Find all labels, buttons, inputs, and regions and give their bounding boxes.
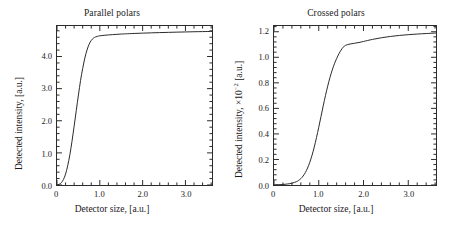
panel-title: Parallel polars	[0, 8, 224, 18]
data-curve	[57, 31, 212, 185]
x-axis-title: Detector size, [a.u.]	[224, 204, 448, 214]
x-axis-tick-label: 2.0	[358, 189, 369, 199]
plot-area	[56, 25, 213, 186]
y-axis-tick-label: 4.0	[41, 51, 52, 61]
x-axis-tick-label: 3.0	[404, 189, 415, 199]
panel-title: Crossed polars	[224, 8, 448, 18]
y-axis-title-exponent: −2	[232, 83, 239, 90]
y-axis-tick-label: 1.0	[258, 52, 269, 62]
x-axis-tick-label: 1.0	[94, 189, 105, 199]
data-curve	[274, 33, 436, 185]
y-axis-title-suffix: [a.u.]	[234, 61, 244, 83]
y-axis-tick-label: 0.6	[258, 103, 269, 113]
y-axis-tick-label: 0.4	[258, 129, 269, 139]
y-axis-tick-label: 0.0	[258, 181, 269, 191]
y-axis-title: Detected intensity, [a.u.]	[14, 77, 24, 170]
x-axis-tick-label: 1.0	[313, 189, 324, 199]
y-axis-title-prefix: Detected intensity, ×10	[234, 90, 244, 178]
tick-marks	[274, 26, 436, 185]
figure-two-panel-plot: Parallel polars 0.01.02.03.04.0 01.02.03…	[0, 0, 449, 228]
y-axis-tick-label: 2.0	[41, 116, 52, 126]
y-axis-tick-label: 0.0	[41, 181, 52, 191]
x-axis-tick-label: 3.0	[181, 189, 192, 199]
y-axis-tick-label: 0.2	[258, 155, 269, 165]
x-axis-title: Detector size, [a.u.]	[0, 204, 224, 214]
panel-crossed-polars: Crossed polars 0.00.20.40.60.81.01.2 01.…	[224, 0, 448, 228]
x-axis-tick-labels: 01.02.03.0	[273, 189, 437, 203]
y-axis-tick-labels: 0.01.02.03.04.0	[20, 25, 52, 186]
y-axis-tick-label: 1.0	[41, 149, 52, 159]
plot-canvas	[274, 26, 436, 185]
plot-canvas	[57, 26, 212, 185]
tick-marks	[57, 26, 212, 185]
x-axis-tick-labels: 01.02.03.0	[56, 189, 213, 203]
y-axis-tick-label: 0.8	[258, 78, 269, 88]
y-axis-title: Detected intensity, ×10−2 [a.u.]	[232, 61, 244, 178]
y-axis-tick-label: 1.2	[258, 26, 269, 36]
y-axis-tick-label: 3.0	[41, 83, 52, 93]
x-axis-tick-label: 0	[271, 189, 275, 199]
plot-area	[273, 25, 437, 186]
panel-parallel-polars: Parallel polars 0.01.02.03.04.0 01.02.03…	[0, 0, 224, 228]
x-axis-tick-label: 0	[54, 189, 58, 199]
x-axis-tick-label: 2.0	[137, 189, 148, 199]
